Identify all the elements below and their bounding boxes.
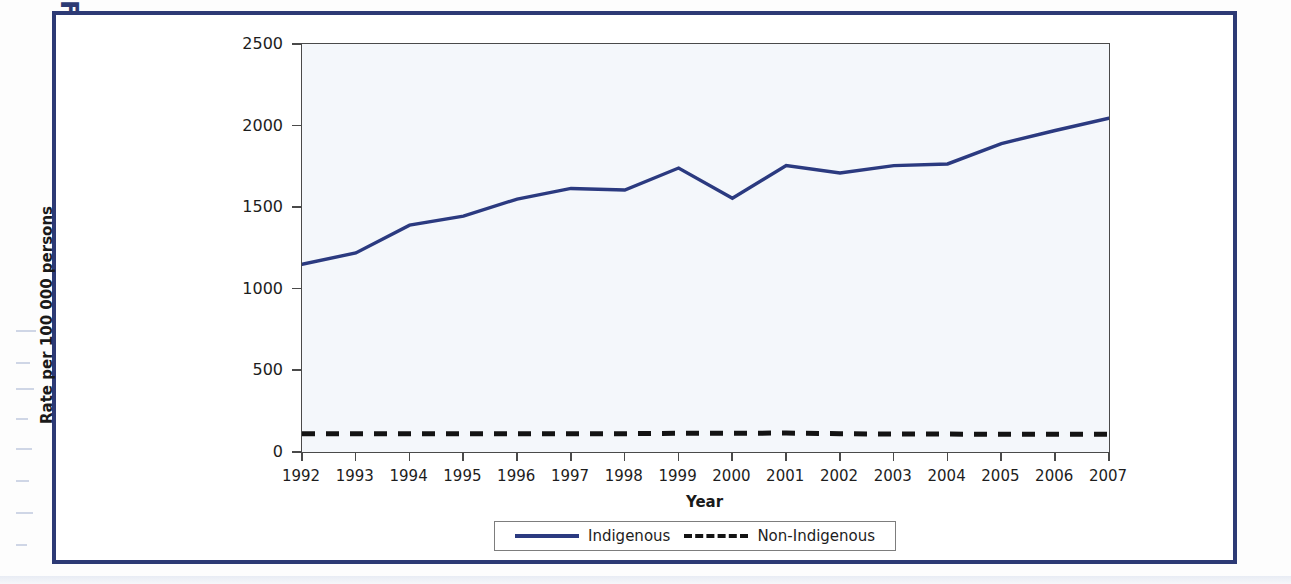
x-tick-mark	[839, 452, 841, 461]
y-tick-label: 1500	[221, 197, 283, 216]
x-tick-mark	[570, 452, 572, 461]
x-tick-mark	[355, 452, 357, 461]
x-tick-mark	[678, 452, 680, 461]
chart-legend: IndigenousNon-Indigenous	[494, 521, 896, 551]
y-tick-mark	[292, 369, 301, 371]
plot-area	[301, 43, 1110, 453]
y-tick-mark	[292, 125, 301, 127]
y-tick-label: 2000	[221, 116, 283, 135]
y-tick-mark	[292, 451, 301, 453]
x-tick-mark	[624, 452, 626, 461]
x-tick-mark	[947, 452, 949, 461]
x-tick-mark	[462, 452, 464, 461]
y-tick-mark	[292, 288, 301, 290]
x-tick-mark	[516, 452, 518, 461]
legend-label: Non-Indigenous	[757, 527, 875, 545]
legend-swatch-solid	[515, 534, 579, 538]
figure-frame: Rate per 100 000 persons 050010001500200…	[52, 11, 1237, 564]
y-tick-mark	[292, 206, 301, 208]
series-line-non-indigenous	[302, 433, 1109, 434]
legend-swatch-dashed	[684, 534, 748, 538]
y-tick-label: 1000	[221, 279, 283, 298]
x-tick-mark	[893, 452, 895, 461]
y-tick-mark	[292, 43, 301, 45]
x-axis-title: Year	[301, 493, 1108, 511]
x-tick-label: 2007	[1076, 467, 1140, 485]
page-scan-edge	[0, 576, 1291, 584]
y-tick-label: 2500	[221, 34, 283, 53]
legend-entry: Indigenous	[515, 527, 670, 545]
x-tick-mark	[301, 452, 303, 461]
y-tick-label: 0	[221, 442, 283, 461]
y-axis-title: Rate per 100 000 persons	[38, 165, 56, 465]
series-line-indigenous	[302, 118, 1109, 264]
x-tick-mark	[409, 452, 411, 461]
y-tick-label: 500	[221, 360, 283, 379]
line-chart-svg	[302, 44, 1109, 452]
scanned-page: FIGURE 13.12 Rate per 100 000 persons 05…	[0, 0, 1291, 584]
chart-container: Rate per 100 000 persons 050010001500200…	[56, 15, 1233, 560]
x-tick-mark	[785, 452, 787, 461]
x-tick-mark	[1054, 452, 1056, 461]
x-tick-mark	[1000, 452, 1002, 461]
x-tick-mark	[1108, 452, 1110, 461]
legend-label: Indigenous	[588, 527, 670, 545]
x-tick-mark	[731, 452, 733, 461]
legend-entry: Non-Indigenous	[684, 527, 875, 545]
